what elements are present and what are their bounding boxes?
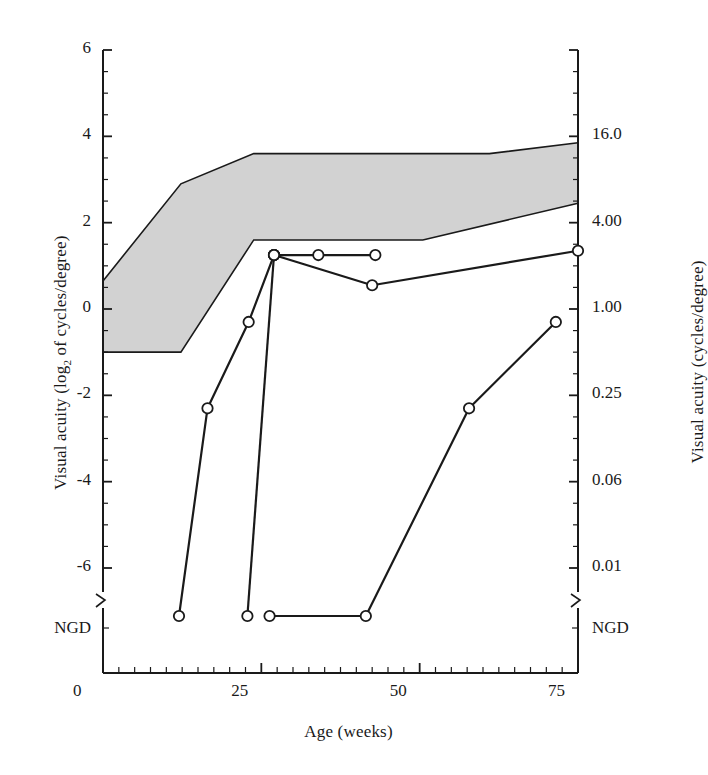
data-point-marker [551,317,561,327]
axis-break-left [96,594,105,607]
axes-group [96,50,580,673]
y-tick-label-right-ngd: NGD [592,618,662,638]
y-tick-label-right: 16.0 [592,124,662,144]
y-tick-label-left: 6 [33,38,91,58]
data-point-marker [202,403,212,413]
data-point-marker [573,246,583,256]
data-point-marker [370,250,380,260]
data-point-marker [367,280,377,290]
y-tick-label-left-ngd: NGD [28,618,91,638]
data-point-marker [464,403,474,413]
series-line [270,322,556,616]
axis-break-right [571,594,580,607]
x-axis-title: Age (weeks) [0,722,697,742]
y-tick-label-left: -2 [33,383,91,403]
y-tick-label-left: 0 [33,297,91,317]
y-tick-label-right: 0.01 [592,556,662,576]
y-tick-label-left: -4 [33,470,91,490]
y-tick-label-right: 4.00 [592,211,662,231]
y-tick-label-right: 1.00 [592,297,662,317]
y-tick-label-left: 2 [33,211,91,231]
y-axis-right-title: Visual acuity (cycles/degree) [688,182,708,542]
data-series-group [174,246,583,622]
y-tick-label-left: -6 [33,556,91,576]
y-tick-label-right: 0.25 [592,383,662,403]
x-tick-label: 25 [231,681,291,701]
series-line [247,255,274,616]
normal-range-polygon [103,143,578,352]
x-tick-label: 50 [390,681,450,701]
series-5 [264,317,561,621]
normal-range-band [103,143,578,352]
data-point-marker [269,250,279,260]
x-tick-label: 0 [73,681,133,701]
data-point-marker [313,250,323,260]
data-point-marker [264,611,274,621]
data-point-marker [242,611,252,621]
data-point-marker [243,317,253,327]
data-point-marker [361,611,371,621]
y-tick-label-right: 0.06 [592,470,662,490]
y-tick-label-left: 4 [33,124,91,144]
series-2 [242,250,279,621]
data-point-marker [174,611,184,621]
x-tick-label: 75 [548,681,608,701]
